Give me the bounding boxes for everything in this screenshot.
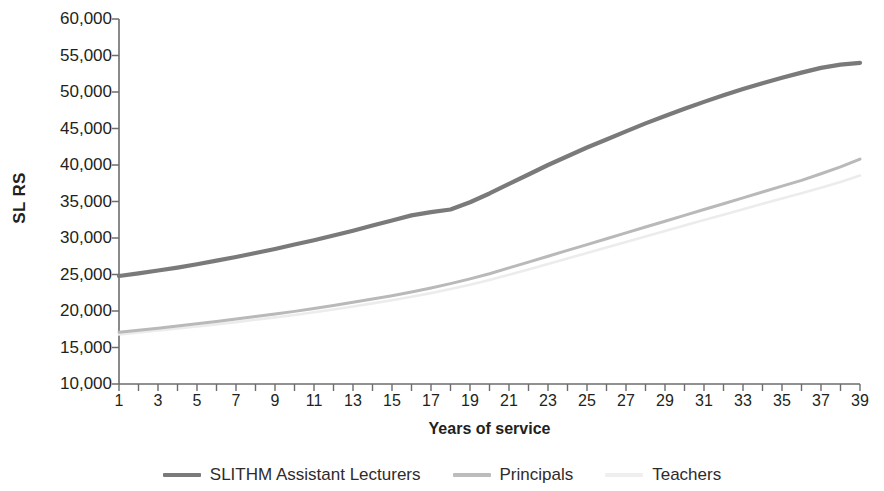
x-axis-tick-label: 29 xyxy=(656,392,674,410)
legend-swatch-icon xyxy=(605,473,643,477)
x-axis-tick-label: 11 xyxy=(306,392,323,410)
x-axis-tick-label: 1 xyxy=(115,392,124,410)
legend-item[interactable]: Teachers xyxy=(605,465,721,485)
x-axis-title: Years of service xyxy=(119,420,860,438)
legend-label: Teachers xyxy=(652,465,721,485)
legend-label: Principals xyxy=(500,465,574,485)
x-axis-tick-label: 21 xyxy=(500,392,518,410)
x-axis-tick-label: 13 xyxy=(344,392,362,410)
x-axis-tick-label: 39 xyxy=(851,392,869,410)
legend-swatch-icon xyxy=(453,473,491,477)
x-axis-tick-label: 37 xyxy=(812,392,830,410)
x-axis-tick-label: 35 xyxy=(773,392,791,410)
x-axis-tick-label: 3 xyxy=(154,392,163,410)
chart-legend: SLITHM Assistant LecturersPrincipalsTeac… xyxy=(0,458,884,491)
series-line xyxy=(119,176,860,335)
x-axis-tick-labels: 13579111315171921232527293133353739 xyxy=(0,392,884,418)
x-axis-tick-label: 33 xyxy=(734,392,752,410)
series-line xyxy=(119,63,860,276)
legend-label: SLITHM Assistant Lecturers xyxy=(210,465,421,485)
series-line xyxy=(119,159,860,332)
x-axis-tick-label: 23 xyxy=(539,392,557,410)
legend-swatch-icon xyxy=(163,473,201,477)
axis-ticks xyxy=(112,19,860,391)
x-axis-tick-label: 5 xyxy=(193,392,202,410)
line-chart: SL RS 10,00015,00020,00025,00030,00035,0… xyxy=(0,0,884,491)
x-axis-tick-label: 7 xyxy=(232,392,241,410)
legend-item[interactable]: SLITHM Assistant Lecturers xyxy=(163,465,421,485)
x-axis-tick-label: 17 xyxy=(422,392,440,410)
x-axis-tick-label: 27 xyxy=(617,392,635,410)
x-axis-tick-label: 31 xyxy=(695,392,713,410)
x-axis-tick-label: 19 xyxy=(461,392,479,410)
x-axis-tick-label: 25 xyxy=(578,392,596,410)
series-lines xyxy=(119,63,860,335)
x-axis-tick-label: 15 xyxy=(383,392,401,410)
x-axis-tick-label: 9 xyxy=(271,392,280,410)
legend-item[interactable]: Principals xyxy=(453,465,574,485)
axis-lines xyxy=(119,19,860,384)
